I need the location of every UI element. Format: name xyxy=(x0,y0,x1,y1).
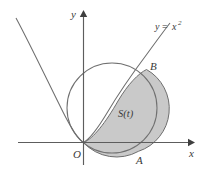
y-axis-label: y xyxy=(70,8,76,20)
region-area-label: S(t) xyxy=(118,108,134,120)
curve-equation-equals: = xyxy=(162,21,168,32)
math-figure: x y O A B S(t) y = x 2 xyxy=(0,0,206,176)
origin-label: O xyxy=(73,148,81,160)
figure-container: x y O A B S(t) y = x 2 xyxy=(0,0,206,176)
point-a-label: A xyxy=(135,154,143,166)
x-axis-arrow-icon xyxy=(188,139,195,146)
curve-equation-lhs: y xyxy=(154,21,160,32)
curve-equation-exponent: 2 xyxy=(178,19,182,27)
curve-equation-base: x xyxy=(171,21,177,32)
y-axis-arrow-icon xyxy=(80,10,87,17)
x-axis-label: x xyxy=(188,147,194,159)
point-b-label: B xyxy=(150,60,157,72)
